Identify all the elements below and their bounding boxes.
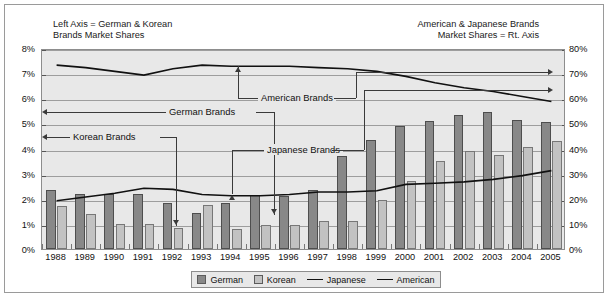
- legend-item-german[interactable]: German: [197, 275, 243, 285]
- y-axis-left-tick: 4%: [9, 145, 35, 155]
- chart-figure: Left Axis = German & Korean Brands Marke…: [4, 4, 604, 293]
- legend-item-american[interactable]: American: [377, 275, 435, 285]
- y-axis-left-tick: 3%: [9, 170, 35, 180]
- x-axis-label: 1991: [128, 252, 157, 262]
- x-axis-label: 1994: [216, 252, 245, 262]
- left-axis-caption-line1: Left Axis = German & Korean: [53, 19, 172, 30]
- bar-light-swatch: [254, 275, 263, 284]
- x-axis-labels: 1988198919901991199219931994199519961997…: [41, 252, 565, 266]
- y-axis-left: 8%7%6%5%4%3%2%1%0%: [9, 5, 35, 294]
- legend-label: Japanese: [327, 275, 366, 285]
- x-axis-label: 1990: [99, 252, 128, 262]
- y-axis-right-tick: 50%: [569, 119, 599, 129]
- x-axis-label: 2001: [419, 252, 448, 262]
- line-japanese: [57, 171, 552, 201]
- arrowhead-japanese-up: [229, 195, 235, 200]
- leader-japanese-right: [332, 150, 364, 151]
- right-axis-caption-line1: American & Japanese Brands: [417, 19, 539, 30]
- x-axis-label: 1988: [41, 252, 70, 262]
- legend-label: German: [210, 275, 243, 285]
- leader-american-left: [238, 98, 258, 99]
- x-axis-label: 1995: [245, 252, 274, 262]
- leader-american-right: [334, 98, 356, 99]
- x-axis-label: 2000: [390, 252, 419, 262]
- x-axis-label: 1997: [303, 252, 332, 262]
- line-swatch: [377, 279, 393, 280]
- leader-korean-right: [160, 137, 176, 138]
- leader-korean-vert: [176, 137, 177, 226]
- y-axis-right-tick: 30%: [569, 170, 599, 180]
- arrowhead-japanese-right: [548, 87, 553, 93]
- x-axis-label: 2003: [478, 252, 507, 262]
- arrowhead-german-left: [42, 109, 47, 115]
- y-axis-right-tick: 10%: [569, 220, 599, 230]
- right-axis-caption-line2: Market Shares = Rt. Axis: [417, 30, 539, 41]
- plot-area: German BrandsKorean BrandsJapanese Brand…: [41, 49, 565, 250]
- left-axis-caption: Left Axis = German & Korean Brands Marke…: [53, 19, 172, 42]
- y-axis-right-tick: 70%: [569, 69, 599, 79]
- x-axis-label: 2002: [449, 252, 478, 262]
- y-axis-left-tick: 7%: [9, 69, 35, 79]
- annotation-german-brands: German Brands: [166, 106, 238, 117]
- x-axis-label: 1989: [70, 252, 99, 262]
- y-axis-right-tick: 40%: [569, 145, 599, 155]
- right-axis-caption: American & Japanese Brands Market Shares…: [417, 19, 539, 42]
- y-axis-right-tick: 80%: [569, 44, 599, 54]
- arrowhead-korean-down: [173, 220, 179, 225]
- annotation-korean-brands: Korean Brands: [70, 131, 139, 142]
- chart-legend: GermanKoreanJapaneseAmerican: [191, 271, 441, 288]
- leader-japanese-vert: [232, 150, 233, 194]
- leader-japanese-left: [232, 150, 264, 151]
- x-axis-label: 1992: [157, 252, 186, 262]
- leader-american-top: [356, 72, 550, 73]
- y-axis-left-tick: 1%: [9, 220, 35, 230]
- legend-item-korean[interactable]: Korean: [254, 275, 296, 285]
- y-axis-right: 80%70%60%50%40%30%20%10%0%: [569, 5, 601, 294]
- legend-label: Korean: [267, 275, 296, 285]
- x-axis-label: 2004: [507, 252, 536, 262]
- arrowhead-korean-left: [42, 134, 47, 140]
- x-axis-label: 2005: [536, 252, 565, 262]
- arrowhead-american-up: [235, 67, 241, 72]
- legend-label: American: [397, 275, 435, 285]
- leader-german-vert: [274, 112, 275, 215]
- leader-american-vert2: [356, 72, 357, 98]
- legend-item-japanese[interactable]: Japanese: [307, 275, 366, 285]
- annotation-american-brands: American Brands: [258, 92, 336, 103]
- arrowhead-american-right: [548, 69, 553, 75]
- left-axis-caption-line2: Brands Market Shares: [53, 30, 172, 41]
- leader-japanese-vert2: [364, 90, 365, 150]
- y-axis-left-tick: 0%: [9, 245, 35, 255]
- y-axis-right-tick: 0%: [569, 245, 599, 255]
- leader-korean-left: [46, 137, 70, 138]
- y-axis-left-tick: 8%: [9, 44, 35, 54]
- y-axis-left-tick: 2%: [9, 195, 35, 205]
- x-axis-label: 1999: [361, 252, 390, 262]
- x-axis-label: 1996: [274, 252, 303, 262]
- line-swatch: [307, 279, 323, 280]
- y-axis-right-tick: 20%: [569, 195, 599, 205]
- y-axis-right-tick: 60%: [569, 94, 599, 104]
- leader-german-left: [46, 112, 166, 113]
- y-axis-left-tick: 5%: [9, 119, 35, 129]
- arrowhead-german-down: [271, 209, 277, 214]
- x-axis-label: 1998: [332, 252, 361, 262]
- bar-dark-swatch: [197, 275, 206, 284]
- x-axis-label: 1993: [187, 252, 216, 262]
- y-axis-left-tick: 6%: [9, 94, 35, 104]
- leader-japanese-top: [364, 90, 550, 91]
- leader-german-right: [256, 112, 274, 113]
